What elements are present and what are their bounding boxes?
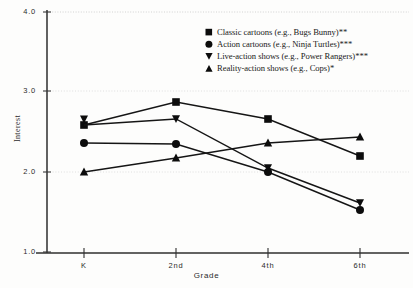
legend-item-action-cartoons: Action cartoons (e.g., Ninja Turtles)***	[203, 38, 413, 50]
y-tick-label-1: 1.0	[4, 247, 36, 256]
data-point-marker	[80, 139, 88, 147]
legend-item-classic-cartoons: Classic cartoons (e.g., Bugs Bunny)**	[203, 26, 413, 38]
chart-legend: Classic cartoons (e.g., Bugs Bunny)** Ac…	[203, 26, 413, 74]
x-axis-title: Grade	[0, 271, 413, 280]
chart-figure: 4.0 3.0 2.0 1.0 K 2nd 4th 6th Interest G…	[0, 0, 413, 288]
y-tick-label-4: 4.0	[4, 7, 36, 16]
series-live-action-shows	[80, 115, 364, 207]
legend-label: Reality-action shows (e.g., Cops)*	[217, 63, 334, 73]
data-point-marker	[356, 206, 364, 214]
triangle-up-marker-icon	[203, 62, 217, 74]
y-tick-label-3: 3.0	[4, 86, 36, 95]
square-marker-icon	[203, 26, 217, 38]
data-point-marker	[356, 199, 364, 207]
data-point-marker	[172, 140, 180, 148]
legend-item-live-action-shows: Live-action shows (e.g., Power Rangers)*…	[203, 50, 413, 62]
x-tick-label-k: K	[64, 261, 104, 270]
series-reality-action-shows	[80, 133, 364, 176]
legend-label: Classic cartoons (e.g., Bugs Bunny)**	[217, 27, 347, 37]
triangle-down-marker-icon	[203, 50, 217, 62]
data-point-marker	[264, 168, 272, 176]
data-point-marker	[356, 152, 364, 160]
legend-item-reality-action-shows: Reality-action shows (e.g., Cops)*	[203, 62, 413, 74]
x-tick-label-4th: 4th	[248, 261, 288, 270]
data-point-marker	[172, 98, 180, 106]
y-axis-title: Interest	[13, 99, 22, 159]
y-tick-label-2: 2.0	[4, 167, 36, 176]
data-point-marker	[264, 115, 272, 123]
x-tick-label-2nd: 2nd	[156, 261, 196, 270]
circle-marker-icon	[203, 38, 217, 50]
x-tick-label-6th: 6th	[340, 261, 380, 270]
legend-label: Action cartoons (e.g., Ninja Turtles)***	[217, 39, 352, 49]
legend-label: Live-action shows (e.g., Power Rangers)*…	[217, 51, 368, 61]
